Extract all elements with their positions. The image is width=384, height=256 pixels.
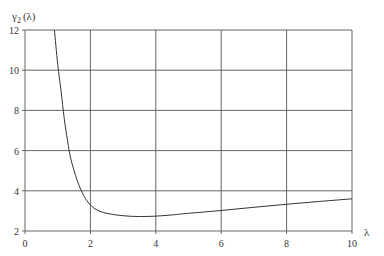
tick-labels: 246810120246810 bbox=[9, 25, 357, 249]
x-tick-label: 4 bbox=[153, 238, 158, 249]
y-tick-label: 8 bbox=[14, 105, 19, 116]
y-tick-label: 12 bbox=[9, 25, 19, 36]
x-tick-label: 6 bbox=[219, 238, 224, 249]
y-tick-label: 2 bbox=[14, 226, 19, 237]
y-tick-label: 6 bbox=[14, 146, 19, 157]
x-tick-label: 8 bbox=[284, 238, 289, 249]
x-tick-label: 10 bbox=[347, 238, 357, 249]
chart-container: 246810120246810 γ2(λ) λ bbox=[0, 0, 384, 256]
x-axis-label: λ bbox=[364, 226, 370, 238]
x-tick-label: 2 bbox=[88, 238, 93, 249]
x-tick-label: 0 bbox=[23, 238, 28, 249]
line-chart: 246810120246810 γ2(λ) λ bbox=[0, 0, 384, 256]
y-axis-label: γ2(λ) bbox=[11, 10, 36, 25]
y-tick-label: 4 bbox=[14, 186, 19, 197]
y-tick-label: 10 bbox=[9, 65, 19, 76]
data-series-line bbox=[54, 30, 352, 217]
